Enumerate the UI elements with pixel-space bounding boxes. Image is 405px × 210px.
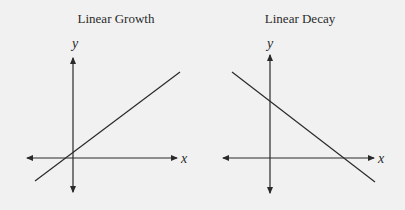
panel-title: Linear Decay <box>265 11 336 26</box>
panel-title: Linear Growth <box>78 11 155 26</box>
growth-line <box>35 72 180 181</box>
y-axis-label: y <box>265 36 274 51</box>
x-axis-label: x <box>377 151 385 166</box>
panel-linear-growth: Linear Growth x y <box>27 11 188 192</box>
panel-linear-decay: Linear Decay x y <box>223 11 385 193</box>
decay-line <box>232 72 375 182</box>
linear-graphs-diagram: Linear Growth x y Linear Decay x y <box>0 0 405 210</box>
x-axis-label: x <box>180 151 188 166</box>
y-axis-label: y <box>70 36 79 51</box>
